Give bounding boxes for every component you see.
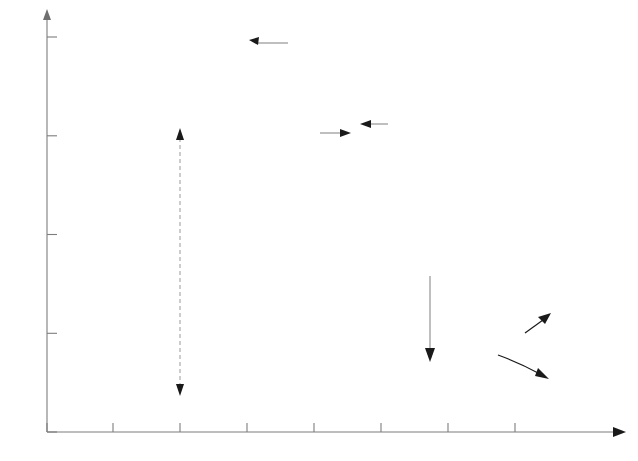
y-axis-arrowhead <box>43 9 51 20</box>
y-axis <box>43 9 51 432</box>
annotation-pill-scare <box>360 120 388 128</box>
x-axis-ticks <box>47 423 515 432</box>
annotation-natural-increase <box>176 128 184 396</box>
annotation-population-not-replacing <box>425 276 435 362</box>
chart-canvas <box>0 0 638 461</box>
population-not-replacing-arrowhead <box>425 348 435 362</box>
deaths-label-group <box>498 355 549 379</box>
contraceptive-pill-arrowhead <box>249 37 259 45</box>
natural-increase-arrowhead-bottom <box>176 384 184 396</box>
annotation-abortion-act <box>320 129 351 137</box>
births-label-group <box>525 313 551 333</box>
abortion-act-arrowhead <box>340 129 351 137</box>
natural-increase-arrowhead-top <box>176 128 184 140</box>
pill-scare-arrowhead <box>360 120 371 128</box>
births-deaths-chart <box>0 0 638 461</box>
y-axis-ticks <box>47 37 57 432</box>
x-axis-arrowhead <box>613 427 626 437</box>
deaths-arrowhead <box>535 368 549 379</box>
annotation-contraceptive-pill <box>249 37 288 45</box>
x-axis <box>47 427 626 437</box>
